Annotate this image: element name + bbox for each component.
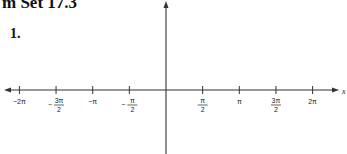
x-tick-numerator: π <box>200 97 205 104</box>
x-tick-label: 2π <box>308 98 317 105</box>
x-tick-denominator: 2 <box>57 106 61 113</box>
x-tick-denominator: 2 <box>201 106 205 113</box>
x-tick-numerator: 3π <box>272 97 281 104</box>
x-tick-denominator: 2 <box>130 106 134 113</box>
x-tick-label: −2π <box>13 98 26 105</box>
x-axis-label: x <box>341 87 346 96</box>
x-tick-label: −π <box>88 98 97 105</box>
y-axis-arrow-icon <box>164 1 169 8</box>
cosine-plot: x−2π−3π2−π−π2π2π3π22π <box>0 0 347 154</box>
x-tick-label: π <box>237 98 242 105</box>
x-tick-denominator: 2 <box>274 106 278 113</box>
x-tick-sign: − <box>121 101 125 108</box>
x-tick-numerator: 3π <box>55 97 64 104</box>
x-tick-sign: − <box>48 101 52 108</box>
x-axis-left-arrow-icon <box>4 88 11 93</box>
x-tick-numerator: π <box>130 97 135 104</box>
x-axis-right-arrow-icon <box>332 88 339 93</box>
